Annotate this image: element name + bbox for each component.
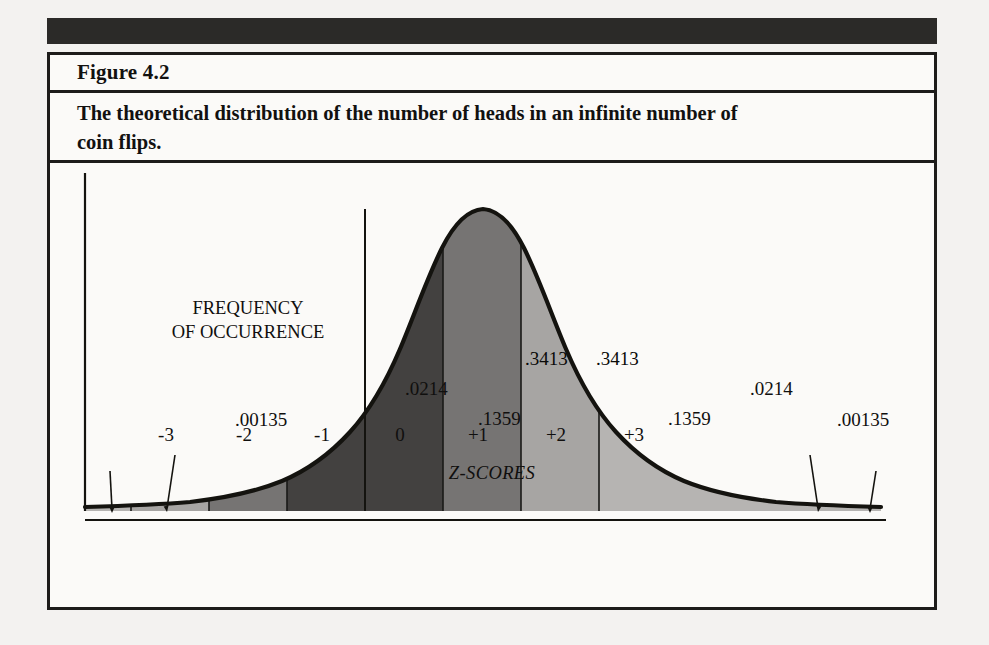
- area-label-zero-plus1: .3413: [596, 348, 639, 370]
- x-axis-title: Z-SCORES: [50, 463, 934, 484]
- figure-caption-row: The theoretical distribution of the numb…: [50, 93, 934, 163]
- x-tick-label-plus3: +3: [614, 424, 654, 446]
- band-minus4-minus3: [50, 163, 131, 604]
- curve-shaded-bands: [50, 163, 934, 604]
- x-tick-label-plus1: +1: [458, 424, 498, 446]
- band-minus1-zero: [287, 163, 365, 604]
- y-axis-title: FREQUENCY OF OCCURRENCE: [158, 296, 338, 344]
- header-black-bar: [47, 18, 937, 44]
- x-tick-label-minus2: -2: [224, 424, 264, 446]
- y-axis-title-line1: FREQUENCY: [158, 296, 338, 320]
- figure-caption-text: The theoretical distribution of the numb…: [77, 99, 777, 157]
- figure-number-row: Figure 4.2: [50, 55, 934, 93]
- chart-plot-area: FREQUENCY OF OCCURRENCE .3413 .3413 .135…: [50, 163, 934, 604]
- x-tick-label-zero: 0: [380, 424, 420, 446]
- page-background: Figure 4.2 The theoretical distribution …: [0, 0, 989, 645]
- figure-box: Figure 4.2 The theoretical distribution …: [47, 52, 937, 610]
- x-axis-title-text: Z-SCORES: [449, 463, 535, 483]
- area-label-plus3-plus4: .00135: [837, 409, 889, 431]
- area-label-plus1-plus2: .1359: [668, 408, 711, 430]
- band-plus2-plus3: [521, 163, 599, 604]
- normal-distribution-chart: [50, 163, 934, 604]
- band-minus3-minus2: [131, 163, 209, 604]
- x-tick-label-plus2: +2: [536, 424, 576, 446]
- area-label-minus1-zero: .3413: [525, 348, 568, 370]
- area-label-plus2-plus3: .0214: [750, 378, 793, 400]
- area-label-minus3-minus2: .0214: [405, 378, 448, 400]
- x-tick-label-minus3: -3: [146, 424, 186, 446]
- band-minus2-minus1: [209, 163, 287, 604]
- figure-number-label: Figure 4.2: [77, 60, 170, 85]
- y-axis-title-line2: OF OCCURRENCE: [158, 320, 338, 344]
- x-tick-label-minus1: -1: [302, 424, 342, 446]
